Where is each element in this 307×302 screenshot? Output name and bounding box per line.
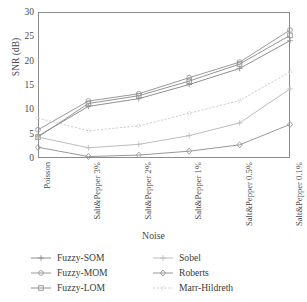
legend-swatch (152, 268, 174, 278)
legend-swatch (152, 253, 174, 263)
y-axis-ticks: 051015202530 (0, 12, 34, 158)
x-tick-label: Salt&Pepper 2% (143, 162, 153, 220)
series-sobel (35, 86, 293, 150)
chart-root: SNR (dB) 051015202530 PoissonSalt&Pepper… (0, 0, 307, 302)
legend-item-marr-hildreth[interactable]: Marr-Hildreth (152, 280, 290, 295)
x-tick-label: Salt&Pepper 1% (193, 162, 203, 220)
legend-label: Sobel (179, 252, 201, 263)
y-tick-label: 20 (25, 56, 35, 66)
series-marr-hildreth (36, 70, 292, 132)
x-tick-label: Salt&Pepper 3% (92, 162, 102, 220)
legend-item-fuzzy-lom[interactable]: Fuzzy-LOM (30, 280, 136, 295)
y-tick-label: 25 (25, 31, 35, 41)
legend-item-fuzzy-mom[interactable]: Fuzzy-MOM (30, 265, 136, 280)
plot-area (38, 12, 290, 158)
y-tick-label: 5 (29, 129, 34, 139)
legend-swatch (30, 283, 52, 293)
y-tick-label: 30 (25, 7, 35, 17)
legend-item-fuzzy-som[interactable]: Fuzzy-SOM (30, 250, 136, 265)
x-tick-label: Poisson (42, 162, 52, 189)
legend-item-sobel[interactable]: Sobel (152, 250, 290, 265)
legend-label: Fuzzy-MOM (57, 267, 108, 278)
series-canvas (38, 12, 290, 158)
legend-swatch (30, 268, 52, 278)
legend-swatch (30, 253, 52, 263)
legend-label: Roberts (179, 267, 209, 278)
x-tick-label: Salt&Pepper 0.1% (294, 162, 304, 226)
legend-swatch (152, 283, 174, 293)
y-tick-label: 15 (25, 80, 35, 90)
legend-label: Marr-Hildreth (179, 282, 233, 293)
y-tick-label: 0 (29, 153, 34, 163)
y-tick-label: 10 (25, 104, 35, 114)
chart-legend: Fuzzy-SOMSobelFuzzy-MOMRobertsFuzzy-LOMM… (30, 250, 290, 295)
x-tick-label: Salt&Pepper 0.5% (244, 162, 254, 226)
legend-label: Fuzzy-LOM (57, 282, 105, 293)
x-axis-title: Noise (0, 230, 307, 241)
legend-item-roberts[interactable]: Roberts (152, 265, 290, 280)
series-fuzzy-mom (36, 28, 293, 133)
legend-label: Fuzzy-SOM (57, 252, 104, 263)
